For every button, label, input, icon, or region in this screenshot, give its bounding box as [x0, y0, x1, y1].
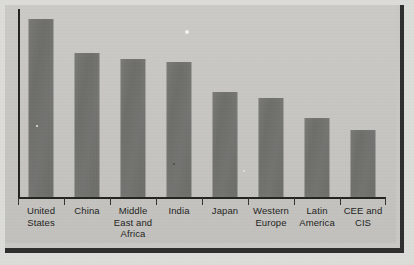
- x-axis-tick: [340, 198, 341, 205]
- x-axis-tick: [294, 198, 295, 205]
- x-axis-label-3: India: [156, 205, 202, 217]
- chart-figure-frame: United StatesChinaMiddle East and Africa…: [5, 5, 404, 253]
- x-axis-category-labels: United StatesChinaMiddle East and Africa…: [18, 205, 386, 249]
- x-axis-tick: [202, 198, 203, 205]
- bar-slot: [110, 9, 156, 198]
- bar-slot: [294, 9, 340, 198]
- x-axis-tick: [248, 198, 249, 205]
- bar-slot: [202, 9, 248, 198]
- x-axis-tick: [110, 198, 111, 205]
- bar[interactable]: [75, 53, 100, 198]
- x-axis-tick: [64, 198, 65, 205]
- x-axis-ticks: [18, 198, 386, 205]
- x-axis-label-6: Latin America: [294, 205, 340, 228]
- bar-series: [18, 9, 386, 198]
- bar[interactable]: [351, 130, 376, 198]
- x-axis-label-2: Middle East and Africa: [110, 205, 156, 240]
- x-axis-label-7: CEE and CIS: [340, 205, 386, 228]
- bar-slot: [156, 9, 202, 198]
- bar-slot: [18, 9, 64, 198]
- bar[interactable]: [167, 62, 192, 198]
- x-axis-tick: [156, 198, 157, 205]
- x-axis-label-0: United States: [18, 205, 64, 228]
- bar-slot: [64, 9, 110, 198]
- bar-slot: [248, 9, 294, 198]
- x-axis-label-5: Western Europe: [248, 205, 294, 228]
- x-axis-tick: [18, 198, 19, 205]
- bar[interactable]: [29, 19, 54, 198]
- x-axis-label-1: China: [64, 205, 110, 217]
- bar[interactable]: [213, 92, 238, 198]
- x-axis-label-4: Japan: [202, 205, 248, 217]
- x-axis-tick-end: [385, 198, 386, 205]
- y-axis-line: [18, 9, 20, 198]
- scanned-page: United StatesChinaMiddle East and Africa…: [0, 0, 414, 265]
- bar-slot: [340, 9, 386, 198]
- bar[interactable]: [121, 59, 146, 198]
- bar[interactable]: [305, 118, 330, 198]
- bar[interactable]: [259, 98, 284, 198]
